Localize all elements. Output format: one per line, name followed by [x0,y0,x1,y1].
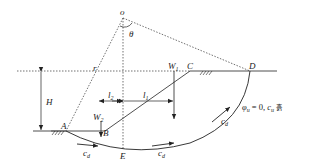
point-label-b: B [103,128,109,138]
cd-label-right: cd [221,116,229,127]
point-label-c: C [187,61,194,71]
ground-hatch-icon-toe [51,131,66,135]
slip-circle-arc [66,71,250,150]
point-label-d: D [248,61,256,71]
ground-hatch-icon-crest [200,71,212,75]
slope-stability-diagram: o θ r C D A B E H W1 W2 l2 l1 cd cd cd φ… [0,0,313,168]
w2-label: W2 [93,112,104,123]
cd-label-middle: cd [158,148,166,159]
radius-label: r [93,63,97,73]
point-label-e: E [119,151,126,161]
soil-property-label: φu = 0, cu흙 [242,102,283,113]
height-label: H [45,97,53,107]
l2-label: l2 [108,90,114,101]
w1-label: W1 [168,61,179,72]
theta-label: θ [129,29,134,39]
point-label-o: o [120,7,125,17]
l1-label: l1 [143,90,149,101]
cd-arrow-middle [152,143,174,146]
cd-label-left: cd [83,148,91,159]
cd-arrow-left [77,144,98,146]
theta-angle-arc [120,23,132,27]
point-label-a: A [60,121,67,131]
